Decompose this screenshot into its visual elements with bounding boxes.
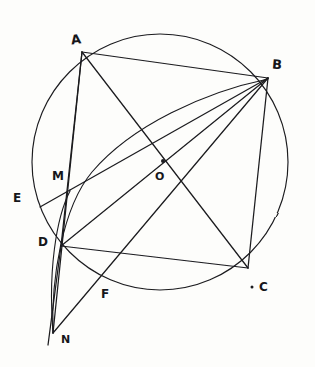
point-c-tick (251, 286, 254, 289)
label-point-c: C (259, 281, 268, 293)
segment-b-m (70, 78, 268, 190)
point-o-dot (161, 159, 165, 163)
label-point-d: D (38, 236, 48, 248)
segment-a-c (82, 52, 248, 268)
segment-a-n (53, 52, 82, 333)
label-point-e: E (13, 192, 21, 204)
label-point-m: M (52, 170, 64, 182)
segment-d-n (48, 246, 61, 345)
segment-d-c (61, 246, 248, 268)
label-point-n: N (61, 334, 70, 345)
label-point-b: B (271, 58, 282, 72)
geometry-figure (0, 0, 315, 367)
label-point-f: F (101, 288, 109, 300)
segment-b-n (53, 78, 268, 333)
segment-a-b (82, 52, 268, 78)
segment-b-c (248, 78, 268, 268)
diagram-canvas: A B C D E F M N O (0, 0, 315, 367)
label-point-a: A (70, 32, 82, 46)
label-point-o: O (155, 171, 164, 182)
